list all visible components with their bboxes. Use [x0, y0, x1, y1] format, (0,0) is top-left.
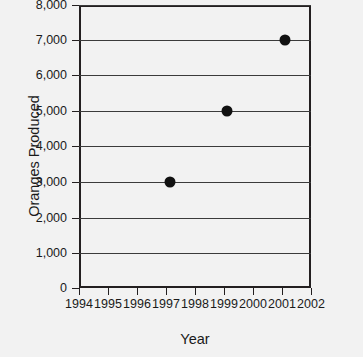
y-tick-label-0: 0: [60, 282, 67, 294]
data-point-2001: [280, 35, 291, 46]
gridline-7000: [79, 40, 311, 41]
x-tick-1995: [108, 288, 109, 295]
y-tick-5000: [72, 111, 79, 112]
data-point-1999: [222, 106, 233, 117]
x-tick-label-2002: 2002: [297, 298, 325, 311]
x-tick-1997: [166, 288, 167, 295]
x-tick-1994: [79, 288, 80, 295]
data-point-1997: [165, 177, 176, 188]
y-tick-4000: [72, 146, 79, 147]
gridline-6000: [79, 75, 311, 76]
y-tick-label-7000: 7,000: [36, 34, 67, 46]
gridline-4000: [79, 146, 311, 147]
y-tick-0: [72, 288, 79, 289]
x-tick-label-2000: 2000: [239, 298, 267, 311]
x-axis-title: Year: [79, 331, 311, 347]
y-tick-7000: [72, 40, 79, 41]
gridline-1000: [79, 253, 311, 254]
gridline-5000: [79, 111, 311, 112]
x-tick-1996: [137, 288, 138, 295]
x-tick-1999: [224, 288, 225, 295]
x-tick-2001: [282, 288, 283, 295]
y-tick-8000: [72, 5, 79, 6]
x-tick-label-1994: 1994: [65, 298, 93, 311]
y-tick-3000: [72, 182, 79, 183]
x-tick-2002: [311, 288, 312, 295]
gridline-3000: [79, 182, 311, 183]
x-tick-label-1995: 1995: [94, 298, 122, 311]
y-tick-label-8000: 8,000: [36, 0, 67, 11]
gridline-2000: [79, 218, 311, 219]
x-tick-2000: [253, 288, 254, 295]
y-tick-2000: [72, 218, 79, 219]
gridline-8000: [79, 5, 311, 6]
x-tick-label-1999: 1999: [210, 298, 238, 311]
x-tick-label-1997: 1997: [152, 298, 180, 311]
x-tick-1998: [195, 288, 196, 295]
y-tick-1000: [72, 253, 79, 254]
scatter-chart: 8,000 7,000 6,000 5,000 4,000 3,000 2,00…: [0, 0, 363, 357]
y-axis-title: Oranges Produced: [26, 46, 42, 266]
y-tick-6000: [72, 75, 79, 76]
x-tick-label-1998: 1998: [181, 298, 209, 311]
x-tick-label-2001: 2001: [268, 298, 296, 311]
x-tick-label-1996: 1996: [123, 298, 151, 311]
